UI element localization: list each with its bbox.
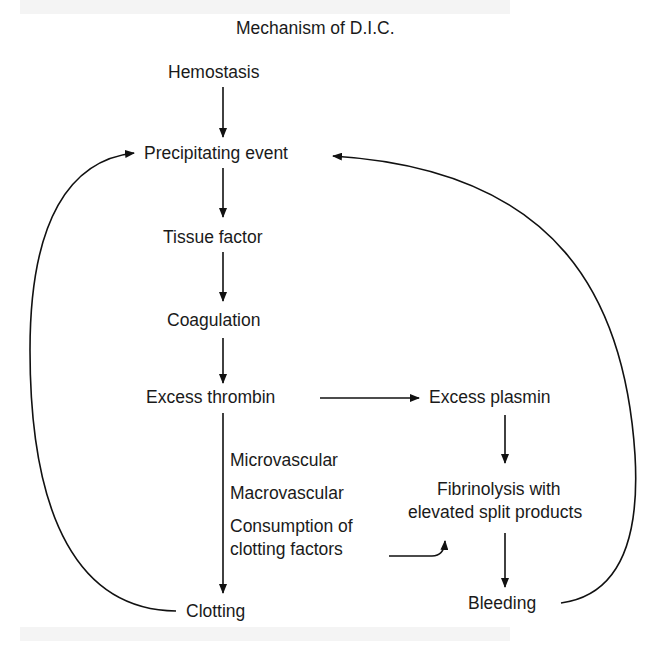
label-consumption-line1: Consumption of xyxy=(230,518,353,536)
label-microvascular: Microvascular xyxy=(230,452,338,470)
arrow-bleeding-to-precipitating xyxy=(333,156,636,603)
node-tissue-factor: Tissue factor xyxy=(163,229,263,247)
node-excess-thrombin: Excess thrombin xyxy=(146,389,275,407)
arrow-consumption-to-fibrinolysis xyxy=(389,541,445,556)
node-coagulation: Coagulation xyxy=(167,312,260,330)
node-fibrinolysis-line2: elevated split products xyxy=(408,504,582,522)
node-fibrinolysis-line1: Fibrinolysis with xyxy=(437,481,561,499)
arrow-clotting-to-precipitating xyxy=(30,153,176,611)
node-clotting: Clotting xyxy=(186,603,245,621)
node-bleeding: Bleeding xyxy=(468,595,536,613)
label-consumption-line2: clotting factors xyxy=(230,541,343,559)
node-hemostasis: Hemostasis xyxy=(168,64,259,82)
diagram-title: Mechanism of D.I.C. xyxy=(236,20,395,38)
label-macrovascular: Macrovascular xyxy=(230,485,344,503)
node-precipitating-event: Precipitating event xyxy=(144,145,288,163)
node-excess-plasmin: Excess plasmin xyxy=(429,389,551,407)
